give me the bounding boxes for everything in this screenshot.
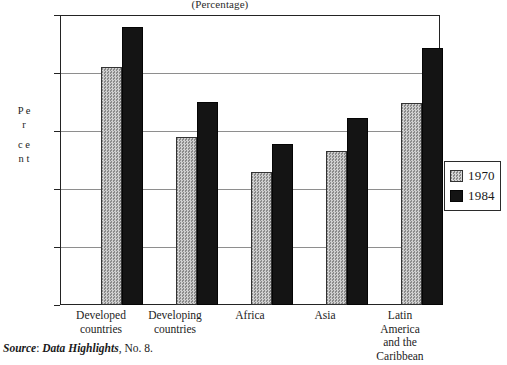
y-axis-title-letter: t — [26, 153, 29, 164]
y-axis-title-letter: e — [25, 139, 30, 150]
gridline-30 — [61, 131, 439, 132]
y-axis-title-letter: c — [18, 139, 23, 150]
legend-label-1970: 1970 — [468, 168, 495, 184]
gridline-20 — [61, 189, 439, 190]
plot-area — [60, 15, 440, 305]
x-category-label-latin-america-caribbean: LatinAmericaand theCaribbean — [355, 309, 445, 363]
x-category-label-line: countries — [130, 323, 220, 337]
x-category-label-line: Latin — [355, 309, 445, 323]
legend-entry-1984: 1984 — [450, 186, 500, 206]
y-tick-mark-0 — [54, 305, 60, 306]
chart-title: (Percentage) — [0, 0, 440, 10]
x-category-label-line: Caribbean — [355, 350, 445, 364]
source-publication: Data Highlights — [42, 342, 118, 354]
gridline-10 — [61, 247, 439, 248]
y-axis-title-letter: e — [26, 105, 31, 116]
source-note: Source: Data Highlights, No. 8. — [3, 342, 153, 354]
solid-black-swatch-icon — [450, 190, 463, 202]
y-axis-title-letter: P — [18, 105, 23, 116]
source-suffix: , No. 8. — [119, 342, 153, 354]
chart-legend: 1970 1984 — [444, 161, 501, 211]
y-axis-title-letter: r — [22, 119, 26, 130]
gridline-40 — [61, 73, 439, 74]
y-axis-title-letter: n — [19, 153, 24, 164]
legend-label-1984: 1984 — [468, 188, 495, 204]
hatched-gray-swatch-icon — [450, 170, 463, 182]
legend-entry-1970: 1970 — [450, 166, 500, 186]
x-category-label-line: America — [355, 323, 445, 337]
source-prefix: Source — [3, 342, 36, 354]
x-category-label-line: and the — [355, 336, 445, 350]
y-axis-title-gap — [16, 131, 32, 138]
chart-page: (Percentage) 50 40 30 20 10 0 P e r c e … — [0, 0, 507, 365]
y-axis-title: P e r c e n t — [16, 104, 32, 165]
